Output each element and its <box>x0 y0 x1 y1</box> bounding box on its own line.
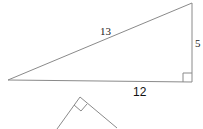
hypotenuse-line <box>8 3 192 80</box>
second-right-angle-marker <box>74 104 87 111</box>
right-angle-marker <box>183 73 192 82</box>
right-triangle <box>8 3 192 82</box>
vertical-leg-label: 5 <box>195 37 201 49</box>
horizontal-leg-line <box>8 80 192 82</box>
second-right-leg <box>80 97 117 128</box>
horizontal-leg-label: 12 <box>133 85 147 99</box>
second-left-leg <box>57 97 80 129</box>
diagram-canvas: 13 5 12 <box>0 0 203 129</box>
hypotenuse-label: 13 <box>100 25 112 37</box>
second-triangle <box>57 97 117 129</box>
